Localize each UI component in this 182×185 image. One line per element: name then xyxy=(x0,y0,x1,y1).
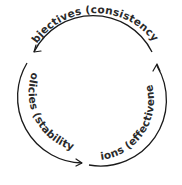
cycle-diagram: Objectives (consistency) Policies (stabi… xyxy=(0,0,182,185)
label-policies: Policies (stability) xyxy=(0,0,76,152)
arrow-head-icon xyxy=(153,64,160,71)
label-policies-text: Policies (stability) xyxy=(0,0,76,152)
label-objectives: Objectives (consistency) xyxy=(0,0,161,45)
label-objectives-text: Objectives (consistency) xyxy=(0,0,161,45)
